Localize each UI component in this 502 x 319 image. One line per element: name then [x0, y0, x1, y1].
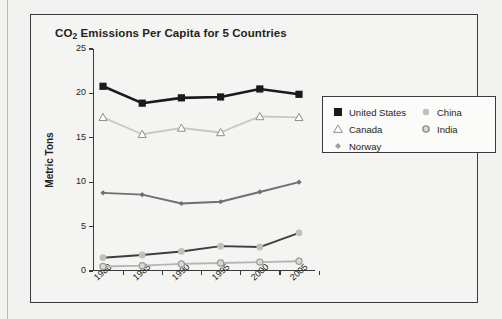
page-left-rule [7, 0, 8, 319]
legend-item-label: Canada [349, 124, 382, 135]
legend-item-label: United States [349, 107, 406, 118]
series-layer [93, 49, 315, 271]
light-circle-icon [420, 106, 432, 118]
data-point [140, 192, 145, 197]
data-point [218, 260, 224, 266]
y-tick-label: 20 [76, 88, 86, 97]
data-point [296, 258, 302, 264]
small-diamond-icon [332, 140, 344, 152]
data-point [178, 94, 185, 101]
data-point [100, 190, 105, 195]
y-tick-label: 25 [76, 44, 86, 53]
x-tick [201, 271, 202, 275]
legend-item-norway[interactable]: Norway [332, 138, 406, 154]
series-line [103, 182, 299, 203]
series-line [103, 86, 299, 103]
chart-legend: United StatesCanadaNorway ChinaIndia [322, 96, 496, 153]
filled-square-icon [332, 106, 344, 118]
data-point [296, 180, 301, 185]
data-point [295, 91, 302, 98]
legend-item-china[interactable]: China [420, 104, 462, 120]
ringed-circle-icon [420, 123, 432, 135]
y-axis-label: Metric Tons [44, 132, 55, 187]
legend-item-canada[interactable]: Canada [332, 121, 406, 137]
figure-frame: CO2 Emissions Per Capita for 5 Countries… [30, 14, 478, 303]
series-line [103, 261, 299, 266]
data-point [139, 100, 146, 107]
series-united-states [99, 83, 302, 107]
data-point [256, 244, 263, 251]
data-point [256, 85, 263, 92]
y-tick-label: 15 [76, 133, 86, 142]
chart-title-subscript: 2 [72, 31, 77, 41]
series-norway [100, 180, 301, 207]
legend-column-right: ChinaIndia [420, 104, 462, 138]
legend-item-label: Norway [349, 141, 381, 152]
x-tick [123, 271, 124, 275]
data-point [139, 263, 145, 269]
data-point [100, 263, 106, 269]
x-tick [162, 271, 163, 275]
series-china [100, 229, 303, 261]
data-point [217, 93, 224, 100]
x-tick [240, 271, 241, 275]
legend-item-india[interactable]: India [420, 121, 462, 137]
x-tick [279, 271, 280, 275]
y-tick-label: 10 [76, 177, 86, 186]
series-line [103, 233, 299, 258]
open-triangle-icon [332, 123, 344, 135]
data-point [139, 252, 146, 259]
chart-title-prefix: CO [55, 27, 72, 39]
series-canada [99, 112, 303, 137]
data-point [178, 248, 185, 255]
legend-item-label: India [437, 124, 458, 135]
x-tick [319, 271, 320, 275]
data-point [100, 254, 107, 261]
data-point [296, 229, 303, 236]
chart-title-rest: Emissions Per Capita for 5 Countries [77, 27, 286, 39]
data-point [218, 199, 223, 204]
legend-item-label: China [437, 107, 462, 118]
data-point [257, 259, 263, 265]
data-point [99, 83, 106, 90]
data-point [99, 113, 107, 120]
chart-title: CO2 Emissions Per Capita for 5 Countries [55, 27, 287, 39]
data-point [217, 243, 224, 250]
series-line [103, 116, 299, 134]
data-point [178, 261, 184, 267]
data-point [179, 201, 184, 206]
plot-area: Metric Tons 0510152025 19801985199019952… [93, 49, 315, 271]
y-tick-label: 0 [81, 266, 86, 275]
legend-column-left: United StatesCanadaNorway [332, 104, 406, 155]
legend-item-united-states[interactable]: United States [332, 104, 406, 120]
series-india [100, 258, 302, 270]
y-tick-label: 5 [81, 222, 86, 231]
data-point [257, 189, 262, 194]
